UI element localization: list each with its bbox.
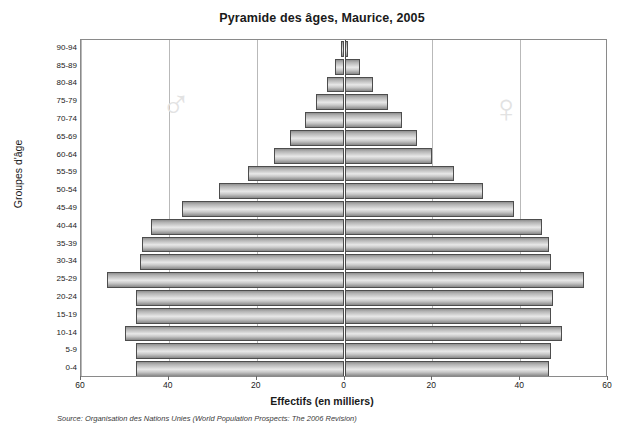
plot-area: ♂ ♀ — [80, 39, 607, 377]
bar-row — [81, 325, 606, 343]
bar-row — [81, 200, 606, 218]
x-tick-label: 60 — [60, 380, 100, 390]
y-tick-35-39: 35-39 — [3, 239, 77, 248]
bar-female-70-74 — [345, 112, 402, 128]
bar-male-5-9 — [136, 343, 345, 359]
y-tick-10-14: 10-14 — [3, 328, 77, 337]
y-tick-70-74: 70-74 — [3, 114, 77, 123]
x-axis-tick-labels: 6040200204060 — [80, 380, 607, 394]
bar-female-45-49 — [345, 201, 514, 217]
bar-row — [81, 147, 606, 165]
y-tick-55-59: 55-59 — [3, 167, 77, 176]
bar-male-65-69 — [290, 130, 345, 146]
chart-title: Pyramide des âges, Maurice, 2005 — [0, 11, 644, 25]
y-tick-85-89: 85-89 — [3, 61, 77, 70]
bar-row — [81, 182, 606, 200]
bar-female-15-19 — [345, 308, 551, 324]
bar-female-60-64 — [345, 148, 433, 164]
y-tick-45-49: 45-49 — [3, 203, 77, 212]
bar-row — [81, 289, 606, 307]
bar-male-40-44 — [151, 219, 344, 235]
bar-male-70-74 — [305, 112, 345, 128]
bar-female-55-59 — [345, 166, 455, 182]
bar-female-50-54 — [345, 183, 483, 199]
bar-female-85-89 — [345, 59, 360, 75]
x-tick-label: 60 — [587, 380, 627, 390]
y-tick-75-79: 75-79 — [3, 96, 77, 105]
bar-female-25-29 — [345, 272, 584, 288]
bar-female-5-9 — [345, 343, 551, 359]
x-axis-title: Effectifs (en milliers) — [0, 395, 644, 407]
bar-female-40-44 — [345, 219, 543, 235]
bar-row — [81, 58, 606, 76]
bar-female-20-24 — [345, 290, 554, 306]
bar-female-10-14 — [345, 326, 562, 342]
bar-male-75-79 — [316, 94, 345, 110]
y-tick-80-84: 80-84 — [3, 78, 77, 87]
bar-male-50-54 — [219, 183, 344, 199]
bar-row — [81, 165, 606, 183]
bar-row — [81, 236, 606, 254]
y-tick-25-29: 25-29 — [3, 274, 77, 283]
y-tick-40-44: 40-44 — [3, 221, 77, 230]
x-tick-label: 0 — [324, 380, 364, 390]
bar-male-35-39 — [142, 237, 344, 253]
bar-male-10-14 — [125, 326, 345, 342]
y-tick-0-4: 0-4 — [3, 363, 77, 372]
bar-row — [81, 307, 606, 325]
x-tick-label: 20 — [236, 380, 276, 390]
y-tick-5-9: 5-9 — [3, 345, 77, 354]
y-tick-65-69: 65-69 — [3, 132, 77, 141]
y-axis-tick-labels: 90-9485-8980-8475-7970-7465-6960-6455-59… — [0, 39, 77, 377]
bar-male-45-49 — [182, 201, 344, 217]
y-tick-20-24: 20-24 — [3, 292, 77, 301]
bar-row — [81, 40, 606, 58]
x-tick-label: 40 — [148, 380, 188, 390]
bar-male-20-24 — [136, 290, 345, 306]
bar-row — [81, 360, 606, 377]
bar-male-80-84 — [327, 77, 345, 93]
bar-male-85-89 — [335, 59, 345, 75]
y-tick-60-64: 60-64 — [3, 150, 77, 159]
bar-row — [81, 218, 606, 236]
source-note: Source: Organisation des Nations Unies (… — [57, 414, 357, 423]
y-tick-30-34: 30-34 — [3, 256, 77, 265]
x-tick-label: 40 — [499, 380, 539, 390]
y-tick-15-19: 15-19 — [3, 310, 77, 319]
bar-male-0-4 — [136, 361, 345, 377]
x-tick-label: 20 — [411, 380, 451, 390]
bar-row — [81, 129, 606, 147]
y-tick-50-54: 50-54 — [3, 185, 77, 194]
bar-male-60-64 — [274, 148, 344, 164]
y-tick-90-94: 90-94 — [3, 43, 77, 52]
bar-row — [81, 93, 606, 111]
bar-female-35-39 — [345, 237, 549, 253]
bar-female-30-34 — [345, 254, 551, 270]
bar-female-0-4 — [345, 361, 549, 377]
bar-male-25-29 — [107, 272, 344, 288]
bar-male-15-19 — [136, 308, 345, 324]
bar-female-65-69 — [345, 130, 417, 146]
bar-male-55-59 — [248, 166, 345, 182]
bar-female-75-79 — [345, 94, 389, 110]
bar-row — [81, 111, 606, 129]
zero-axis-line — [345, 40, 346, 376]
population-pyramid-figure: Pyramide des âges, Maurice, 2005 Groupes… — [0, 0, 644, 438]
bar-row — [81, 271, 606, 289]
bar-male-30-34 — [140, 254, 344, 270]
bar-female-80-84 — [345, 77, 374, 93]
bar-row — [81, 342, 606, 360]
bar-row — [81, 253, 606, 271]
bar-row — [81, 76, 606, 94]
